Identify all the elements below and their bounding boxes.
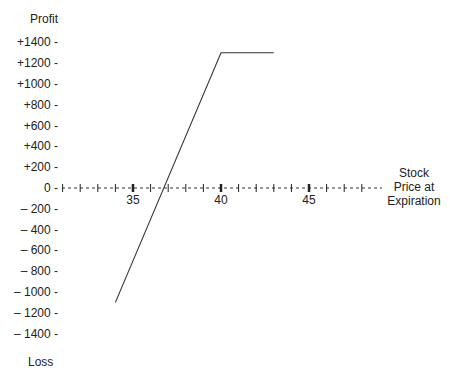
profit-loss-line <box>115 53 273 303</box>
plot-area <box>0 0 450 382</box>
